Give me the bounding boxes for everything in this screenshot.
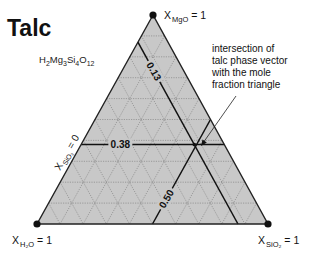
annotation-line: fraction triangle [212,79,281,90]
formula-element: Mg [50,54,63,65]
diagram-title: Talc [7,15,52,41]
formula-subscript: 12 [87,60,95,67]
label-mgo-line: 0.38 [111,139,131,150]
annotation-line: intersection of [212,43,274,54]
formula-element: Si [67,54,75,65]
label-base: X [164,9,171,21]
vertex-label-mgo: XMgO = 1 [164,9,206,24]
label-value: = 1 [188,9,206,21]
vertex-h2o-dot [33,220,40,227]
label-subscript: SiO₂ [266,240,282,249]
label-subscript: MgO [172,15,188,24]
vertex-label-h2o: XH₂O = 1 [12,234,52,249]
formula-element: O [79,54,86,65]
vertex-mgo-dot [149,11,156,18]
annotation-line: talc phase vector [212,55,288,66]
ternary-diagram: Talc H2Mg3Si4O12 XMgO = 1 XH₂O = 1 XSiO₂… [0,0,314,258]
intersection-annotation: intersection oftalc phase vectorwith the… [211,43,288,90]
label-subscript: H₂O [20,240,34,249]
talc-formula: H2Mg3Si4O12 [39,54,95,67]
annotation-line: with the mole [211,67,271,78]
label-value: = 1 [34,234,52,246]
label-value: = 1 [281,234,299,246]
intersection-point [192,143,196,147]
label-base: X [258,234,265,246]
label-base: X [12,234,19,246]
vertex-sio2-dot [264,220,271,227]
vertex-label-sio2: XSiO₂ = 1 [258,234,299,249]
